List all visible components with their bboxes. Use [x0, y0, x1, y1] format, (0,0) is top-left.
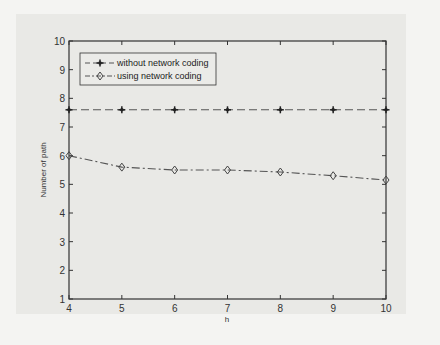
legend-entry: using network coding: [117, 71, 202, 81]
x-tick-label: 6: [172, 303, 178, 314]
x-tick-label: 9: [330, 303, 336, 314]
y-tick-label: 6: [59, 151, 65, 162]
y-tick-label: 3: [59, 237, 65, 248]
y-axis-label: Number of path: [39, 142, 48, 197]
y-tick-label: 2: [59, 265, 65, 276]
x-tick-label: 4: [66, 303, 72, 314]
y-tick-label: 8: [59, 93, 65, 104]
x-tick-label: 5: [119, 303, 125, 314]
series-2: [66, 152, 389, 184]
x-tick-label: 7: [225, 303, 231, 314]
x-tick-label: 8: [278, 303, 284, 314]
y-tick-label: 4: [59, 208, 65, 219]
y-tick-label: 5: [59, 179, 65, 190]
y-tick-label: 7: [59, 122, 65, 133]
line-chart: 4567891012345678910 without network codi…: [0, 0, 440, 345]
legend: without network codingusing network codi…: [80, 53, 216, 85]
y-tick-label: 10: [54, 36, 66, 47]
y-tick-label: 9: [59, 65, 65, 76]
x-tick-label: 10: [380, 303, 392, 314]
y-tick-label: 1: [59, 294, 65, 305]
x-axis-label: h: [225, 315, 229, 324]
series-1: [66, 106, 390, 113]
legend-entry: without network coding: [116, 58, 209, 68]
